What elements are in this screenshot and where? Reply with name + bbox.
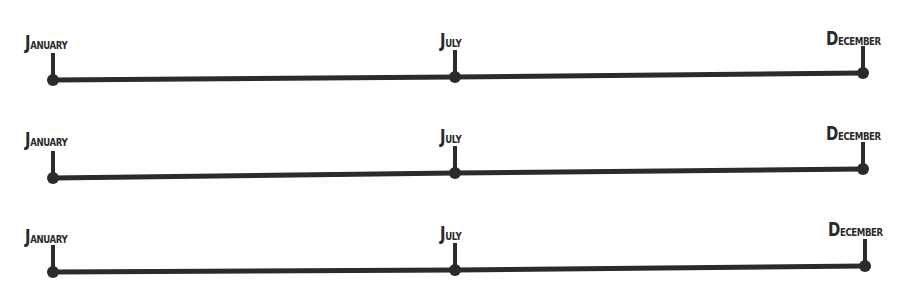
label-rest: uly [445,226,461,244]
timeline-2 [47,142,869,184]
label-rest: anuary [30,229,67,247]
timeline-3 [47,239,871,278]
marker-dot [857,163,869,175]
label-initial: D [826,27,838,49]
marker-dot [47,74,59,86]
label-initial: D [828,218,840,240]
label-rest: anuary [30,35,67,53]
label-rest: uly [445,33,461,51]
label-initial: D [826,122,838,144]
marker-dot [47,266,59,278]
label-rest: uly [445,129,461,147]
timeline-1-label-july: July [440,29,461,51]
marker-dot [859,260,871,272]
marker-dot [857,67,869,79]
label-rest: ecember [840,222,883,240]
marker-dot [449,167,461,179]
timeline-1-label-december: December [826,27,881,49]
marker-dot [47,172,59,184]
timeline-1-label-january: January [25,31,67,53]
timeline-3-label-january: January [25,225,67,247]
timeline-3-label-december: December [828,218,883,240]
marker-dot [449,71,461,83]
label-rest: anuary [30,132,67,150]
timeline-2-label-december: December [826,122,881,144]
timeline-2-label-july: July [440,125,461,147]
timeline-1 [47,46,869,86]
timeline-2-label-january: January [25,128,67,150]
label-rest: ecember [838,126,881,144]
timeline-3-label-july: July [440,222,461,244]
label-rest: ecember [838,31,881,49]
marker-dot [449,264,461,276]
